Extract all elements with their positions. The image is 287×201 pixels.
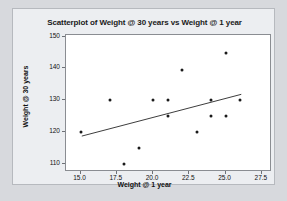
plot-canvas (66, 35, 270, 170)
x-axis-tick-label: 17.5 (101, 174, 131, 181)
plot-area (65, 34, 271, 171)
x-axis-tick-label: 20.0 (137, 174, 167, 181)
y-axis-tick-label: 110 (34, 159, 60, 166)
chart-panel: Scatterplot of Weight @ 30 years vs Weig… (12, 8, 275, 185)
data-point (239, 99, 242, 102)
y-axis-title: Weight @ 30 years (22, 52, 29, 142)
data-point (166, 99, 169, 102)
x-axis-tick-label: 25.0 (210, 174, 240, 181)
y-axis-tick-label: 120 (34, 127, 60, 134)
figure-root: Scatterplot of Weight @ 30 years vs Weig… (0, 0, 287, 201)
data-point (210, 115, 213, 118)
regression-line (82, 94, 241, 136)
data-point (181, 69, 184, 72)
chart-title: Scatterplot of Weight @ 30 years vs Weig… (13, 18, 276, 27)
data-point (123, 163, 126, 166)
y-axis-tick-label: 140 (34, 63, 60, 70)
data-point (79, 131, 82, 134)
x-axis-tick-label: 15.0 (65, 174, 95, 181)
y-axis-tick-label: 150 (34, 32, 60, 39)
x-axis-tick-label: 22.5 (173, 174, 203, 181)
data-point (224, 115, 227, 118)
x-axis-title: Weight @ 1 year (13, 181, 276, 188)
x-axis-tick-label: 27.5 (246, 174, 276, 181)
data-point (152, 99, 155, 102)
data-point (210, 99, 213, 102)
data-point (137, 147, 140, 150)
data-point (224, 51, 227, 54)
data-point (166, 115, 169, 118)
y-axis-tick-label: 130 (34, 95, 60, 102)
data-point (108, 99, 111, 102)
data-point (195, 131, 198, 134)
